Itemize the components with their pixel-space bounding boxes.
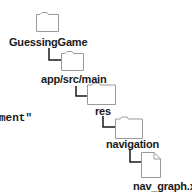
node-label-guessinggame: GuessingGame <box>9 36 87 48</box>
file-icon <box>142 153 161 178</box>
folder-icon <box>37 13 59 32</box>
node-label-res: res <box>95 105 111 117</box>
folder-icon <box>62 52 84 71</box>
connector-line <box>76 86 87 96</box>
connector-line <box>103 116 115 127</box>
code-fragment: ment" <box>0 112 32 124</box>
node-label-nav-graph-xml: nav_graph.xml <box>133 180 192 192</box>
node-label-app-src-main: app/src/main <box>41 73 106 85</box>
connector-line <box>130 149 141 162</box>
folder-icon <box>116 117 143 139</box>
tree-diagram <box>0 0 192 192</box>
folder-icon <box>88 83 116 105</box>
node-label-navigation: navigation <box>106 138 159 150</box>
connector-line <box>49 48 61 60</box>
